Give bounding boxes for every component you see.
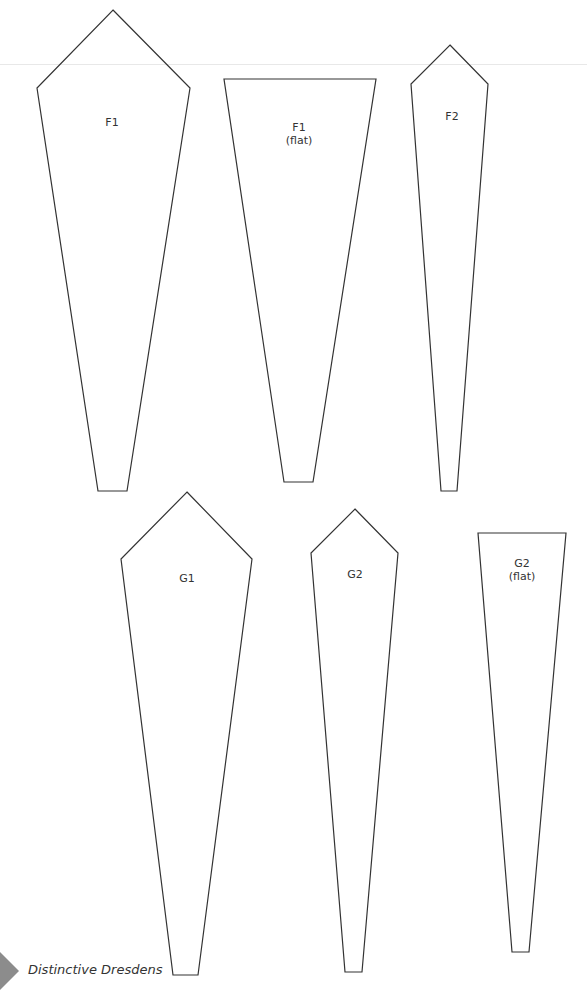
template-sublabel: (flat) (492, 570, 552, 583)
template-f1-outline (37, 10, 190, 491)
template-name: F1 (269, 121, 329, 134)
template-name: G2 (492, 557, 552, 570)
template-sublabel: (flat) (269, 134, 329, 147)
template-label-g2: G2 (325, 568, 385, 581)
template-name: G1 (157, 572, 217, 585)
template-name: F2 (422, 110, 482, 123)
template-g1-outline (121, 492, 252, 975)
running-footer-title: Distinctive Dresdens (28, 962, 162, 977)
template-g2-flat-outline (478, 533, 566, 952)
page-tab-arrow-icon (0, 952, 19, 990)
template-shapes (0, 0, 587, 993)
template-name: F1 (82, 116, 142, 129)
pattern-page: F1 F1 (flat) F2 G1 G2 G2 (flat) Distinct… (0, 0, 587, 993)
template-label-f1: F1 (82, 116, 142, 129)
template-label-f2: F2 (422, 110, 482, 123)
template-label-f1-flat: F1 (flat) (269, 121, 329, 147)
template-name: G2 (325, 568, 385, 581)
template-label-g1: G1 (157, 572, 217, 585)
template-label-g2-flat: G2 (flat) (492, 557, 552, 583)
